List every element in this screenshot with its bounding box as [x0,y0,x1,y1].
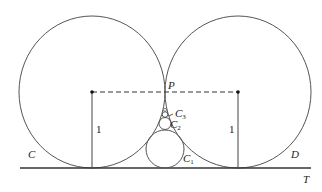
label-c1: C1 [183,152,194,166]
label-radius-right: 1 [229,123,235,135]
label-c2: C2 [170,118,181,132]
circle-c4 [164,108,167,111]
diagram-canvas: P C D T C1 C2 C3 1 1 [0,0,322,192]
circle-c3 [162,112,168,118]
label-c: C [28,148,36,160]
label-t: T [303,173,310,185]
label-c3: C3 [175,107,186,121]
label-d: D [290,148,299,160]
circle-c1 [146,130,184,168]
center-dot-right [236,90,240,94]
c3-pointer [169,114,173,116]
center-dot-left [90,90,94,94]
label-radius-left: 1 [96,123,102,135]
label-p: P [167,79,175,91]
apollonian-circles-diagram: P C D T C1 C2 C3 1 1 [0,0,322,192]
